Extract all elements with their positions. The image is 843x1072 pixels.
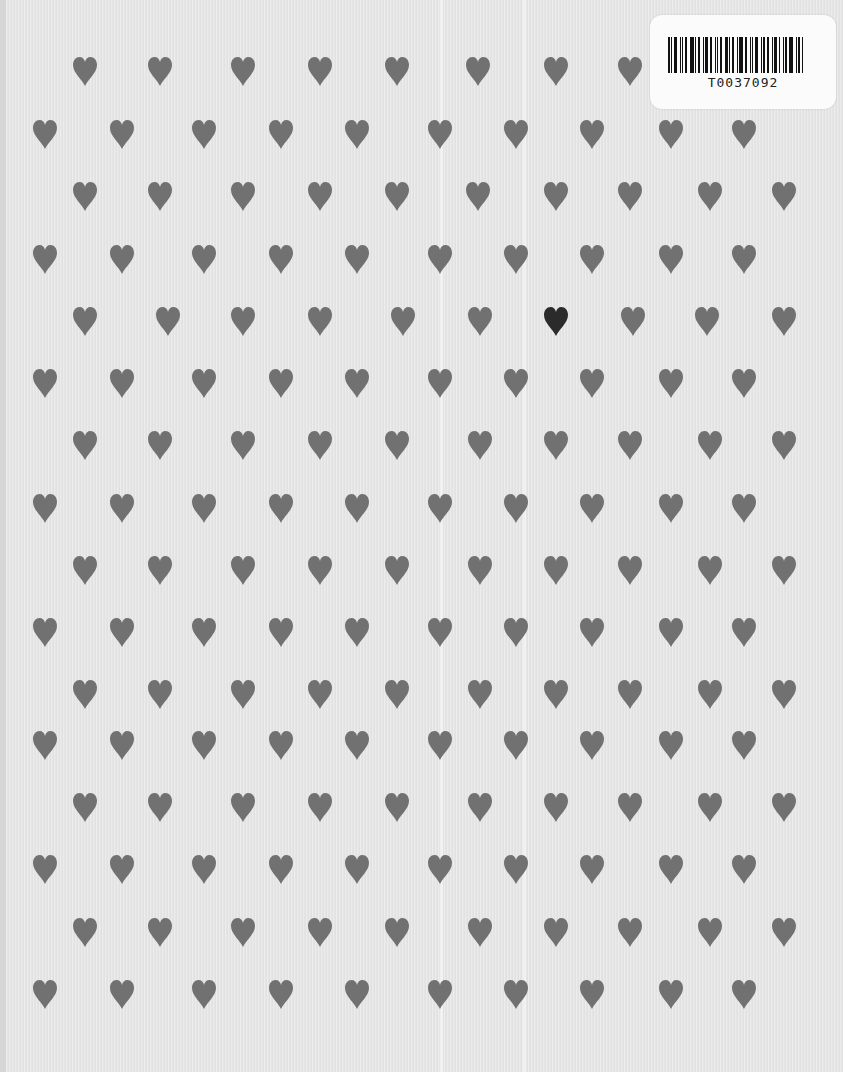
heart-icon — [467, 431, 493, 461]
heart-icon — [771, 431, 797, 461]
heart-icon — [503, 618, 529, 648]
heart-icon — [191, 369, 217, 399]
heart-icon — [268, 369, 294, 399]
heart-icon — [344, 855, 370, 885]
heart-icon — [697, 431, 723, 461]
heart-icon — [658, 245, 684, 275]
heart-icon — [307, 431, 333, 461]
heart-icon — [467, 793, 493, 823]
heart-icon — [503, 245, 529, 275]
heart-icon — [191, 731, 217, 761]
heart-icon — [579, 855, 605, 885]
heart-icon — [579, 369, 605, 399]
heart-icon — [731, 980, 757, 1010]
heart-icon — [344, 980, 370, 1010]
heart-icon — [230, 182, 256, 212]
heart-icon — [467, 307, 493, 337]
heart-icon — [72, 431, 98, 461]
heart-icon — [268, 980, 294, 1010]
heart-icon — [147, 57, 173, 87]
heart-icon — [72, 918, 98, 948]
black-heart-icon — [543, 307, 569, 337]
heart-icon — [543, 918, 569, 948]
heart-icon — [147, 918, 173, 948]
heart-icon — [694, 307, 720, 337]
heart-icon — [307, 680, 333, 710]
heart-icon — [109, 731, 135, 761]
heart-icon — [390, 307, 416, 337]
heart-icon — [427, 245, 453, 275]
heart-icon — [579, 494, 605, 524]
heart-icon — [384, 793, 410, 823]
heart-icon — [307, 307, 333, 337]
heart-icon — [307, 182, 333, 212]
heart-icon — [230, 793, 256, 823]
heart-icon — [465, 57, 491, 87]
heart-icon — [72, 57, 98, 87]
heart-icon — [427, 618, 453, 648]
heart-icon — [32, 855, 58, 885]
heart-icon — [697, 182, 723, 212]
heart-icon — [617, 57, 643, 87]
heart-icon — [503, 120, 529, 150]
heart-icon — [503, 369, 529, 399]
heart-icon — [307, 793, 333, 823]
heart-icon — [579, 120, 605, 150]
heart-icon — [579, 618, 605, 648]
heart-icon — [697, 680, 723, 710]
heart-icon — [344, 494, 370, 524]
heart-icon — [230, 57, 256, 87]
heart-icon — [268, 245, 294, 275]
heart-icon — [344, 731, 370, 761]
heart-icon — [230, 307, 256, 337]
fabric-seam — [440, 0, 443, 1072]
heart-icon — [427, 494, 453, 524]
heart-icon — [230, 918, 256, 948]
heart-icon — [384, 556, 410, 586]
heart-icon — [617, 431, 643, 461]
heart-icon — [617, 793, 643, 823]
heart-icon — [579, 980, 605, 1010]
heart-icon — [658, 618, 684, 648]
heart-icon — [109, 980, 135, 1010]
heart-icon — [771, 307, 797, 337]
heart-icon — [731, 245, 757, 275]
heart-icon — [72, 307, 98, 337]
heart-icon — [191, 980, 217, 1010]
heart-icon — [731, 855, 757, 885]
heart-icon — [72, 680, 98, 710]
heart-icon — [617, 182, 643, 212]
heart-icon — [268, 618, 294, 648]
heart-icon — [344, 618, 370, 648]
heart-icon — [731, 731, 757, 761]
heart-icon — [427, 731, 453, 761]
heart-icon — [109, 494, 135, 524]
heart-icon — [72, 793, 98, 823]
heart-icon — [427, 980, 453, 1010]
heart-icon — [384, 918, 410, 948]
heart-icon — [307, 57, 333, 87]
heart-icon — [503, 980, 529, 1010]
heart-icon — [32, 618, 58, 648]
heart-icon — [579, 245, 605, 275]
heart-icon — [658, 855, 684, 885]
heart-icon — [620, 307, 646, 337]
heart-icon — [109, 618, 135, 648]
heart-icon — [543, 182, 569, 212]
heart-icon — [109, 369, 135, 399]
heart-icon — [579, 731, 605, 761]
heart-icon — [72, 182, 98, 212]
heart-icon — [32, 120, 58, 150]
heart-icon — [230, 680, 256, 710]
heart-icon — [467, 918, 493, 948]
heart-icon — [771, 793, 797, 823]
heart-icon — [427, 369, 453, 399]
heart-icon — [771, 182, 797, 212]
heart-icon — [731, 618, 757, 648]
heart-icon — [32, 369, 58, 399]
heart-icon — [617, 680, 643, 710]
heart-icon — [467, 556, 493, 586]
heart-icon — [658, 120, 684, 150]
heart-icon — [109, 245, 135, 275]
heart-icon — [697, 556, 723, 586]
